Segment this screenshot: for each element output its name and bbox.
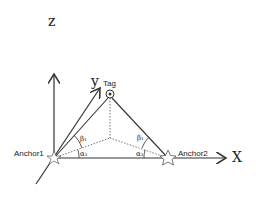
anchor1-alpha-label: α₁ — [80, 151, 88, 158]
x-axis-label: X — [232, 150, 242, 164]
anchor1-tag-line — [54, 98, 108, 158]
anchor1-alpha-arc — [78, 150, 79, 158]
diagram-canvas — [0, 0, 256, 197]
anchor2-alpha-arc — [144, 150, 145, 158]
y-axis — [36, 88, 100, 184]
anchor1-label: Anchor1 — [14, 150, 44, 158]
anchor2-beta-label: β₁ — [137, 135, 144, 142]
tag-icon — [106, 90, 114, 98]
anchor2-alpha-label: α₁ — [136, 151, 144, 158]
anchor2-tag-line — [112, 98, 168, 158]
anchor1-beta-label: β₁ — [80, 136, 87, 143]
y-axis-label: y — [91, 74, 99, 88]
tag-label: Tag — [103, 80, 116, 88]
z-axis-label: z — [48, 14, 55, 28]
anchor2-label: Anchor2 — [178, 150, 208, 158]
